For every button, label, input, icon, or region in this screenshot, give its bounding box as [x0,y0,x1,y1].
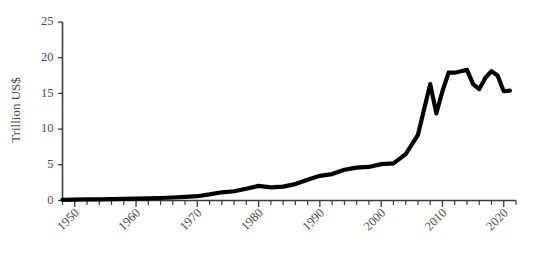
y-tick-label: 25 [41,14,54,28]
x-tick-label: 2010 [422,206,450,234]
y-tick-labels: 0510152025 [41,14,54,207]
y-tick-label: 20 [41,50,54,64]
x-tick-labels: 19501960197019801990200020102020 [54,206,511,234]
x-axis-group: 19501960197019801990200020102020 [54,201,516,234]
y-tick-label: 15 [41,86,54,100]
y-tick-label: 0 [47,193,53,207]
x-tick-label: 1980 [238,206,266,234]
x-tick-marks [63,201,517,208]
y-axis-title: Trillion US$ [8,77,23,143]
chart-container: 0510152025 19501960197019801990200020102… [0,0,534,254]
line-chart: 0510152025 19501960197019801990200020102… [0,0,534,254]
x-tick-label: 2000 [361,206,389,234]
y-tick-label: 5 [47,157,53,171]
data-series-line [63,70,510,200]
x-tick-label: 1960 [116,206,144,234]
x-tick-label: 1950 [54,206,82,234]
x-tick-label: 2020 [483,206,511,234]
y-axis-title-group: Trillion US$ [8,77,23,143]
y-axis-group: 0510152025 [41,14,63,207]
y-tick-label: 10 [41,121,54,135]
x-tick-label: 1970 [177,206,205,234]
x-tick-label: 1990 [299,206,327,234]
